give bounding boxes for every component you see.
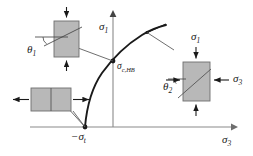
label-specimen-sigma3: σ3	[233, 73, 242, 87]
failure-envelope-curve	[85, 25, 166, 127]
axis-vertical	[110, 10, 117, 127]
leader-line-compression	[78, 48, 113, 61]
axis-label-sigma1: σ1	[99, 21, 108, 35]
label-theta1: θ1	[27, 44, 36, 58]
figure-canvas	[0, 0, 253, 156]
label-theta2: θ2	[163, 81, 172, 95]
uniaxial-compression-specimen	[35, 7, 82, 71]
uniaxial-tension-specimen	[13, 88, 89, 111]
label-sigma-c-hb: σc,HB	[117, 62, 135, 73]
failure-envelope-figure: σ1 σ3 σc,HB −σt θ1 θ2 σ1 σ3	[0, 0, 253, 156]
label-specimen-sigma1: σ1	[191, 31, 200, 45]
label-minus-sigma-t: −σt	[71, 131, 86, 145]
leader-line-triaxial	[147, 24, 174, 50]
axis-label-sigma3: σ3	[222, 134, 231, 148]
axis-horizontal	[30, 124, 238, 131]
triaxial-compression-specimen	[166, 47, 229, 116]
